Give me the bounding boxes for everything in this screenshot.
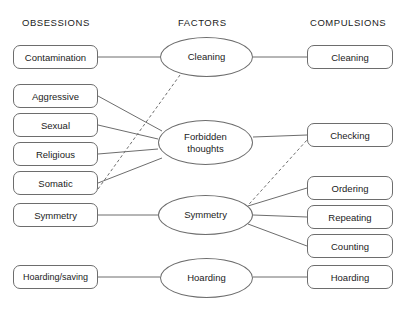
factor-node-symmetry[interactable]: Symmetry (158, 195, 253, 235)
column-header-obsessions: OBSESSIONS (22, 17, 90, 28)
factor-label-symmetry: Symmetry (180, 209, 231, 221)
compulsion-node-repeating[interactable]: Repeating (307, 205, 393, 229)
factor-node-hoarding[interactable]: Hoarding (160, 258, 253, 298)
obsession-node-religious[interactable]: Religious (13, 142, 98, 166)
factor-node-cleaning[interactable]: Cleaning (160, 37, 253, 77)
obsession-node-sexual[interactable]: Sexual (13, 113, 98, 137)
edge-forbidden-thoughts-factor-to-checking (253, 135, 307, 137)
obsession-node-aggressive[interactable]: Aggressive (13, 84, 98, 108)
edge-symmetry-factor-to-repeating (253, 215, 307, 217)
compulsion-node-checking[interactable]: Checking (307, 123, 393, 147)
edge-symmetry-factor-to-checking (242, 140, 307, 212)
obsession-node-somatic[interactable]: Somatic (13, 171, 98, 195)
obsession-node-hoarding-saving[interactable]: Hoarding/saving (13, 265, 98, 289)
compulsion-node-ordering[interactable]: Ordering (307, 176, 393, 200)
column-header-compulsions: COMPULSIONS (310, 17, 386, 28)
obsession-node-contamination[interactable]: Contamination (13, 45, 98, 69)
factor-label-line-2: thoughts (187, 143, 223, 154)
obsession-node-symmetry[interactable]: Symmetry (13, 203, 98, 227)
edge-symmetry-factor-to-counting (248, 224, 307, 246)
edge-sexual-to-forbidden-thoughts-factor (98, 125, 158, 139)
factor-node-forbidden-thoughts[interactable]: Forbidden thoughts (158, 120, 253, 165)
edge-symmetry-factor-to-ordering (248, 188, 307, 206)
factor-label-forbidden-thoughts: Forbidden thoughts (180, 131, 231, 154)
compulsion-node-counting[interactable]: Counting (307, 234, 393, 258)
factor-label-line-1: Forbidden (184, 131, 227, 142)
edge-somatic-to-forbidden-thoughts-factor (98, 158, 162, 183)
edge-religious-to-forbidden-thoughts-factor (98, 149, 158, 154)
edge-aggressive-to-forbidden-thoughts-factor (98, 96, 162, 131)
ocd-factor-diagram: OBSESSIONS FACTORS COMPULSIONS Contamina… (0, 0, 407, 309)
column-header-factors: FACTORS (178, 17, 227, 28)
compulsion-node-cleaning[interactable]: Cleaning (307, 45, 393, 69)
compulsion-node-hoarding[interactable]: Hoarding (307, 265, 393, 289)
factor-label-cleaning: Cleaning (184, 51, 230, 63)
factor-label-hoarding: Hoarding (183, 272, 230, 284)
